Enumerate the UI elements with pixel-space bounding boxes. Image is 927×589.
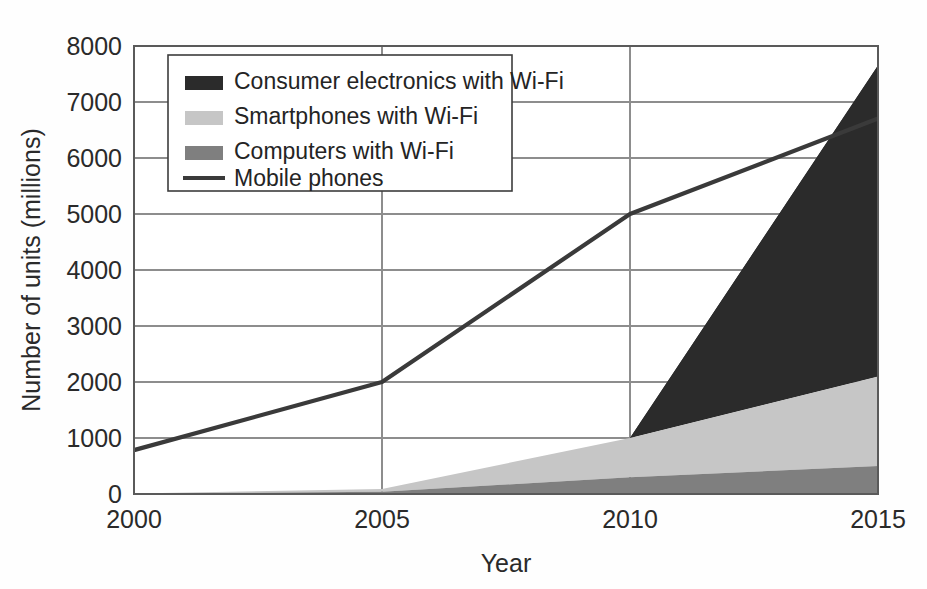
legend-label-mobile-phones: Mobile phones	[234, 165, 384, 191]
y-tick-2000: 2000	[66, 368, 122, 396]
y-tick-8000: 8000	[66, 32, 122, 60]
x-tick-2005: 2005	[354, 505, 410, 533]
y-axis-title: Number of units (millions)	[17, 128, 45, 411]
y-tick-6000: 6000	[66, 144, 122, 172]
x-axis-tick-labels: 2000 2005 2010 2015	[106, 505, 906, 533]
y-tick-5000: 5000	[66, 200, 122, 228]
legend-label-computers: Computers with Wi-Fi	[234, 138, 454, 164]
x-tick-2015: 2015	[850, 505, 906, 533]
legend-swatch-consumer-electronics-icon	[185, 76, 223, 90]
legend-swatch-computers-icon	[185, 146, 223, 160]
y-tick-3000: 3000	[66, 312, 122, 340]
x-axis-title: Year	[481, 549, 532, 577]
y-axis-tick-labels: 8000 7000 6000 5000 4000 3000 2000 1000 …	[66, 32, 122, 508]
legend-label-smartphones: Smartphones with Wi-Fi	[234, 103, 478, 129]
chart-legend: Consumer electronics with Wi-Fi Smartpho…	[168, 55, 564, 191]
legend-label-consumer-electronics: Consumer electronics with Wi-Fi	[234, 68, 564, 94]
stacked-area-chart: 8000 7000 6000 5000 4000 3000 2000 1000 …	[0, 0, 927, 589]
chart-figure: 8000 7000 6000 5000 4000 3000 2000 1000 …	[0, 0, 927, 589]
legend-swatch-smartphones-icon	[185, 111, 223, 125]
x-tick-2010: 2010	[602, 505, 658, 533]
y-tick-4000: 4000	[66, 256, 122, 284]
y-tick-7000: 7000	[66, 88, 122, 116]
x-tick-2000: 2000	[106, 505, 162, 533]
y-tick-1000: 1000	[66, 424, 122, 452]
y-tick-0: 0	[108, 480, 122, 508]
